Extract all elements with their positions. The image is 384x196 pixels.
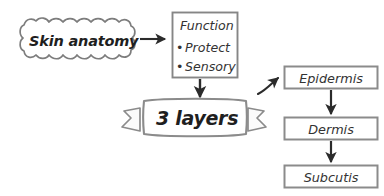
skin-anatomy-label: Skin anatomy: [29, 34, 138, 49]
banner-right-tail-shape: [248, 108, 266, 131]
banner-left-tail-shape: [122, 108, 140, 131]
function-bullet-protect-label: Protect: [185, 40, 230, 55]
diagram-canvas: Skin anatomy Function •Protect •Sensory …: [0, 0, 384, 196]
arrow-banner-to-epidermis: [258, 78, 278, 94]
function-bullet-sensory-label: Sensory: [185, 59, 236, 74]
layer-label-epidermis: Epidermis: [284, 71, 378, 86]
bullet-marker-icon: •: [176, 59, 185, 74]
bullet-marker-icon: •: [176, 40, 185, 55]
function-bullet-sensory: •Sensory: [176, 59, 236, 74]
layer-label-dermis: Dermis: [284, 122, 378, 137]
banner-label: 3 layers: [156, 109, 238, 128]
layer-label-subcutis: Subcutis: [284, 170, 378, 185]
function-box-title: Function: [180, 20, 234, 33]
function-bullet-protect: •Protect: [176, 40, 230, 55]
